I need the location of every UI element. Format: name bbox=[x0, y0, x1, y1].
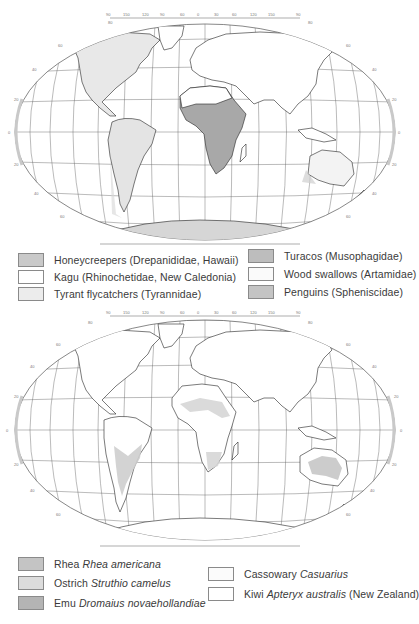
legend-label: Kiwi Apteryx australis (New Zealand) bbox=[244, 588, 419, 600]
svg-text:90: 90 bbox=[296, 12, 301, 17]
legend-swatch bbox=[18, 576, 44, 590]
legend-swatch bbox=[18, 557, 44, 571]
svg-text:0: 0 bbox=[197, 310, 200, 315]
svg-text:80: 80 bbox=[308, 320, 313, 325]
legend-swatch bbox=[18, 287, 44, 301]
svg-text:0: 0 bbox=[398, 130, 401, 135]
greenland bbox=[158, 324, 184, 348]
svg-text:120: 120 bbox=[142, 12, 149, 17]
legend-label: Emu Dromaius novaehollandiae bbox=[54, 597, 206, 609]
svg-text:90: 90 bbox=[160, 310, 165, 315]
svg-text:0: 0 bbox=[8, 130, 11, 135]
legend-label: Kagu (Rhinochetidae, New Caledonia) bbox=[54, 271, 236, 283]
legend-label: Cassowary Casuarius bbox=[244, 568, 348, 580]
svg-text:80: 80 bbox=[108, 20, 113, 25]
legend-item-wood-swallows: Wood swallows (Artamidae) bbox=[248, 266, 416, 282]
longitude-labels-top: 9015012090600306012015090 bbox=[106, 310, 301, 315]
svg-text:60: 60 bbox=[346, 214, 351, 219]
svg-text:120: 120 bbox=[142, 310, 149, 315]
madagascar bbox=[240, 144, 246, 162]
svg-text:150: 150 bbox=[268, 12, 275, 17]
svg-text:90: 90 bbox=[160, 12, 165, 17]
svg-text:20: 20 bbox=[392, 462, 397, 467]
svg-text:60: 60 bbox=[56, 512, 61, 517]
madagascar bbox=[232, 442, 238, 460]
svg-text:60: 60 bbox=[58, 43, 63, 48]
map-1-canvas: 9015012090600306012015090 20020 406080 2… bbox=[0, 4, 410, 248]
legend-label: Turacos (Musophagidae) bbox=[284, 250, 403, 262]
svg-text:40: 40 bbox=[372, 364, 377, 369]
svg-text:30: 30 bbox=[214, 12, 219, 17]
svg-text:90: 90 bbox=[106, 310, 111, 315]
legend-swatch bbox=[208, 587, 234, 601]
svg-text:90: 90 bbox=[106, 12, 111, 17]
antarctica bbox=[100, 518, 320, 550]
legend-label: Rhea Rhea americana bbox=[54, 558, 161, 570]
legend-item-turacos: Turacos (Musophagidae) bbox=[248, 248, 403, 264]
new-zealand bbox=[356, 190, 366, 204]
new-zealand bbox=[336, 504, 346, 518]
legend-item-penguins: Penguins (Spheniscidae) bbox=[248, 284, 403, 300]
legend-swatch bbox=[248, 285, 274, 299]
legend-item-cassowary: Cassowary Casuarius bbox=[208, 566, 348, 582]
legend-label: Honeycreepers (Drepanididae, Hawaii) bbox=[54, 254, 239, 266]
legend-swatch bbox=[18, 596, 44, 610]
svg-text:40: 40 bbox=[30, 488, 35, 493]
svg-text:80: 80 bbox=[308, 20, 313, 25]
legend-swatch bbox=[18, 253, 44, 267]
svg-text:40: 40 bbox=[34, 191, 39, 196]
legend-label: Ostrich Struthio camelus bbox=[54, 577, 171, 589]
svg-text:20: 20 bbox=[14, 462, 19, 467]
svg-text:40: 40 bbox=[32, 67, 37, 72]
svg-text:60: 60 bbox=[180, 12, 185, 17]
legend-label: Tyrant flycatchers (Tyrannidae) bbox=[54, 288, 201, 300]
svg-text:90: 90 bbox=[296, 310, 301, 315]
svg-text:60: 60 bbox=[346, 342, 351, 347]
legend-ratites: Rhea Rhea americana Ostrich Struthio cam… bbox=[0, 556, 410, 620]
legend-swatch bbox=[208, 567, 234, 581]
legend-label: Penguins (Spheniscidae) bbox=[284, 286, 403, 298]
svg-text:60: 60 bbox=[232, 12, 237, 17]
svg-text:40: 40 bbox=[30, 364, 35, 369]
svg-text:0: 0 bbox=[400, 428, 403, 433]
svg-text:20: 20 bbox=[14, 394, 19, 399]
svg-text:20: 20 bbox=[14, 97, 19, 102]
svg-text:80: 80 bbox=[88, 320, 93, 325]
legend-swatch bbox=[18, 270, 44, 284]
map-2-canvas: 9015012090600306012015090 20020 406080 2… bbox=[0, 306, 410, 550]
svg-text:20: 20 bbox=[392, 97, 397, 102]
svg-text:60: 60 bbox=[346, 512, 351, 517]
svg-text:40: 40 bbox=[370, 488, 375, 493]
legend-label: Wood swallows (Artamidae) bbox=[284, 268, 416, 280]
legend-swatch bbox=[248, 267, 274, 281]
continents bbox=[72, 324, 348, 550]
svg-text:120: 120 bbox=[250, 12, 257, 17]
indonesia bbox=[298, 128, 336, 142]
world-map-bird-families: 9015012090600306012015090 20020 406080 2… bbox=[0, 4, 410, 248]
svg-text:20: 20 bbox=[392, 162, 397, 167]
svg-text:150: 150 bbox=[123, 310, 130, 315]
svg-text:40: 40 bbox=[372, 67, 377, 72]
longitude-labels-top: 9015012090600306012015090 bbox=[106, 12, 301, 17]
svg-text:0: 0 bbox=[197, 12, 200, 17]
legend-item-kagu: Kagu (Rhinochetidae, New Caledonia) bbox=[18, 269, 236, 285]
legend-bird-families: Honeycreepers (Drepanididae, Hawaii) Kag… bbox=[0, 252, 410, 302]
svg-text:60: 60 bbox=[56, 342, 61, 347]
svg-text:60: 60 bbox=[60, 214, 65, 219]
legend-item-rhea: Rhea Rhea americana bbox=[18, 556, 161, 572]
legend-item-honeycreepers: Honeycreepers (Drepanididae, Hawaii) bbox=[18, 252, 239, 268]
indonesia bbox=[298, 426, 336, 440]
legend-item-emu: Emu Dromaius novaehollandiae bbox=[18, 595, 206, 611]
ratite-ranges bbox=[114, 398, 342, 496]
world-map-ratites: 9015012090600306012015090 20020 406080 2… bbox=[0, 306, 410, 550]
legend-item-tyrant-flycatchers: Tyrant flycatchers (Tyrannidae) bbox=[18, 286, 201, 302]
legend-item-ostrich: Ostrich Struthio camelus bbox=[18, 575, 171, 591]
svg-text:150: 150 bbox=[123, 12, 130, 17]
svg-text:20: 20 bbox=[394, 394, 399, 399]
australia bbox=[308, 150, 354, 186]
legend-swatch bbox=[248, 249, 274, 263]
svg-text:30: 30 bbox=[214, 310, 219, 315]
greenland bbox=[158, 26, 184, 50]
svg-text:150: 150 bbox=[268, 310, 275, 315]
legend-item-kiwi: Kiwi Apteryx australis (New Zealand) bbox=[208, 586, 419, 602]
